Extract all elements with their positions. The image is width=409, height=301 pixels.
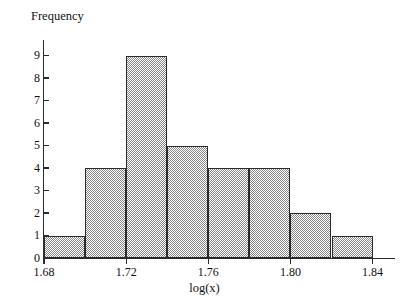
- y-tick-label: 3: [24, 184, 40, 196]
- y-tick-mark: [44, 55, 49, 56]
- histogram-bar: [44, 236, 85, 259]
- x-tick-label: 1.72: [103, 266, 149, 279]
- y-tick-label: 1: [24, 229, 40, 241]
- y-tick-label: 2: [24, 207, 40, 219]
- y-tick-label-text: 4: [26, 162, 40, 174]
- x-tick-mark: [43, 259, 44, 264]
- histogram-bar: [290, 213, 331, 258]
- x-tick-label: 1.68: [21, 266, 67, 279]
- x-axis-title: log(x): [0, 281, 409, 295]
- histogram-bar: [85, 168, 126, 258]
- y-tick-label: 8: [24, 72, 40, 84]
- y-tick-label: 9: [24, 49, 40, 61]
- y-tick-mark: [44, 100, 49, 101]
- y-tick-mark: [44, 77, 49, 78]
- x-tick-label: 1.80: [267, 266, 313, 279]
- x-tick-mark: [208, 259, 209, 264]
- y-tick-label: 6: [24, 117, 40, 129]
- y-tick-label: 0: [24, 252, 40, 264]
- y-tick-mark: [44, 190, 49, 191]
- histogram-figure: Frequency 0123456789 1.681.721.761.801.8…: [0, 0, 409, 301]
- y-tick-label: 5: [24, 139, 40, 151]
- y-tick-label: 4: [24, 162, 40, 174]
- y-tick-label-text: 6: [26, 117, 40, 129]
- histogram-bar: [167, 146, 208, 259]
- histogram-bar: [332, 236, 373, 259]
- y-tick-mark: [44, 145, 49, 146]
- y-tick-label-text: 2: [26, 207, 40, 219]
- y-tick-label-text: 8: [26, 72, 40, 84]
- y-tick-mark: [44, 212, 49, 213]
- histogram-bar: [126, 56, 167, 259]
- y-tick-label-text: 1: [26, 229, 40, 241]
- x-tick-label: 1.76: [185, 266, 231, 279]
- y-tick-label-text: 9: [26, 49, 40, 61]
- y-axis-title: Frequency: [31, 9, 84, 23]
- y-axis-line: [43, 40, 44, 259]
- y-tick-label-text: 5: [26, 139, 40, 151]
- y-tick-label: 7: [24, 94, 40, 106]
- y-tick-label-text: 7: [26, 94, 40, 106]
- y-tick-mark: [44, 167, 49, 168]
- x-tick-label: 1.84: [350, 266, 396, 279]
- histogram-bar: [249, 168, 290, 258]
- x-tick-mark: [290, 259, 291, 264]
- y-tick-label-text: 0: [26, 252, 40, 264]
- y-tick-label-text: 3: [26, 184, 40, 196]
- histogram-bar: [208, 168, 249, 258]
- x-tick-mark: [126, 259, 127, 264]
- x-tick-mark: [372, 259, 373, 264]
- y-tick-mark: [44, 122, 49, 123]
